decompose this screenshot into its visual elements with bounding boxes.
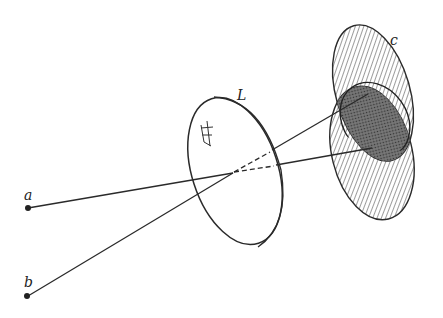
ray-dashed-lower <box>234 166 274 172</box>
label-b: b <box>24 274 33 290</box>
label-lens: L <box>236 87 246 103</box>
lens-grid-mark <box>201 121 213 146</box>
point-b <box>24 293 30 299</box>
label-a: a <box>24 187 32 203</box>
lens-diagram: a b L c <box>0 0 443 318</box>
label-image-c: c <box>390 32 398 48</box>
ray-b-incident <box>28 173 233 296</box>
point-a <box>25 205 31 211</box>
